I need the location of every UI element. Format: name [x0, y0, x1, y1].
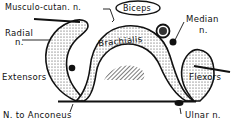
label-extensors: Extensors: [2, 72, 47, 82]
label-radial-n: n.: [15, 37, 24, 47]
median-vessel-inner: [159, 27, 167, 35]
label-median: Median: [186, 14, 219, 24]
label-ulnar: Ulnar n.: [185, 110, 221, 120]
musculo-cutan-leader: [103, 9, 114, 22]
ulnar-leader: [180, 108, 181, 114]
label-median-n: n.: [199, 25, 208, 35]
median-leader: [175, 22, 184, 40]
label-biceps: Biceps: [123, 4, 151, 13]
label-flexors: Flexors: [189, 72, 222, 82]
label-musculo-cutan: Musculo-cutan. n.: [5, 3, 81, 12]
joint-hatched-area: [104, 65, 144, 80]
label-n-to-anconeus: N. to Anconeus: [3, 110, 72, 120]
elbow-cross-section-diagram: Musculo-cutan. n. Biceps Radial n. Media…: [0, 0, 233, 121]
extensors-muscle: [46, 20, 88, 101]
radial-nerve: [69, 65, 76, 72]
